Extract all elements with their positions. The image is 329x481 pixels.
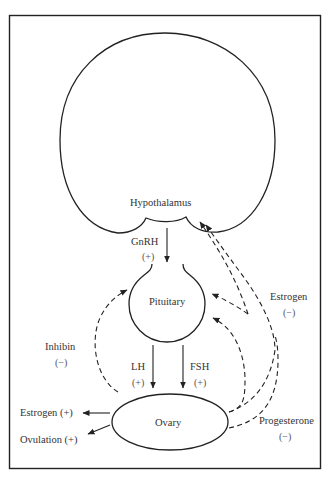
gnrh-label: GnRH (131, 236, 159, 247)
estrogen-pituitary-branch (212, 294, 248, 314)
hypothalamus-label: Hypothalamus (130, 197, 191, 208)
ovulation-output-arrow (88, 425, 110, 434)
fsh-sign: (+) (194, 377, 206, 389)
gnrh-sign: (+) (142, 251, 154, 263)
estrogen-feedback-sign: (−) (283, 307, 295, 319)
lh-label: LH (131, 361, 145, 372)
ovulation-output-label: Ovulation (+) (20, 434, 78, 446)
estrogen-feedback-label: Estrogen (270, 291, 308, 302)
progesterone-label: Progesterone (259, 415, 314, 426)
estrogen-to-pituitary-arrow (213, 318, 245, 412)
inhibin-label: Inhibin (45, 341, 76, 352)
estrogen-hypothalamus-branch (200, 222, 248, 314)
estrogen-to-hypothalamus-arrow (206, 225, 275, 412)
fsh-label: FSH (190, 361, 210, 372)
pituitary-label: Pituitary (149, 296, 186, 307)
reproductive-hormone-diagram: Hypothalamus GnRH (+) Pituitary LH (+) F… (0, 0, 329, 481)
progesterone-sign: (−) (279, 431, 291, 443)
inhibin-feedback-arrow (95, 290, 127, 392)
ovary-label: Ovary (155, 417, 182, 428)
estrogen-output-label: Estrogen (+) (20, 407, 73, 419)
inhibin-sign: (−) (55, 357, 67, 369)
lh-sign: (+) (132, 377, 144, 389)
diagram-frame (10, 16, 321, 469)
